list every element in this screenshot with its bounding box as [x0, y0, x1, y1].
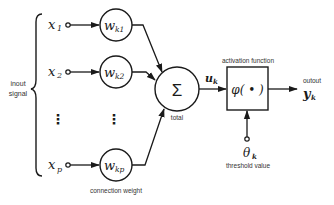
- input-xp-sub: p: [57, 165, 62, 174]
- total-label: total: [171, 114, 184, 121]
- weight-kp-sub: kp: [115, 165, 125, 174]
- input-signal-label-1: inout: [10, 80, 25, 87]
- neuron-diagram: inout signal x 1 w k1 x 2 w k2 ⋮ ⋮ x p w…: [0, 0, 334, 205]
- weight-k2-sub: k2: [115, 72, 125, 81]
- weight-k1-sub: k1: [115, 25, 124, 34]
- output-label: outout: [303, 77, 321, 84]
- input-signal-label-2: signal: [9, 90, 28, 98]
- phi-symbol: φ( • ): [231, 83, 264, 97]
- input-x1-sub: 1: [57, 24, 62, 33]
- threshold-node-icon: [245, 137, 249, 141]
- theta-symbol: θ: [243, 146, 251, 160]
- sigma-icon: Σ: [172, 81, 183, 100]
- u-sub: k: [213, 77, 218, 86]
- activation-function-label: activation function: [222, 57, 274, 64]
- connection-weight-label: connection weight: [90, 187, 142, 195]
- input-x1-symbol: x: [48, 17, 56, 32]
- input-xp-symbol: x: [48, 157, 56, 172]
- input-row-2: x 2 w k2: [48, 56, 155, 88]
- output-y-sub: k: [311, 93, 316, 102]
- inputs-ellipsis: ⋮: [51, 111, 65, 127]
- weight-kp-symbol: w: [104, 158, 115, 173]
- theta-sub: k: [252, 152, 257, 161]
- input-brace: [31, 14, 42, 176]
- threshold-value-label: threshold value: [226, 162, 270, 169]
- weights-ellipsis: ⋮: [107, 111, 121, 127]
- input-x2-sub: 2: [56, 71, 62, 80]
- input-node-icon: [66, 70, 70, 74]
- weight-k1-symbol: w: [104, 18, 115, 33]
- input-node-icon: [66, 163, 70, 167]
- input-row-p: x p w kp: [48, 109, 164, 181]
- input-x2-symbol: x: [48, 64, 56, 79]
- weight-k2-symbol: w: [104, 65, 115, 80]
- u-symbol: u: [205, 72, 213, 85]
- input-node-icon: [66, 23, 70, 27]
